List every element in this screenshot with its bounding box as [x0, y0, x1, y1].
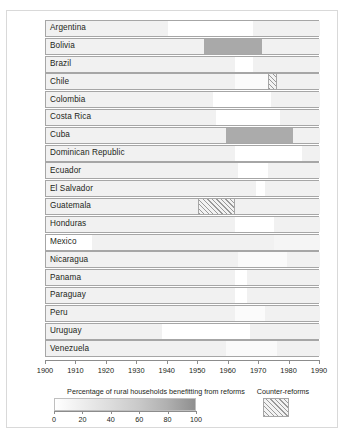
country-label: Guatemala: [50, 199, 91, 214]
legend-tick-label: 0: [52, 415, 56, 424]
reform-segment: [265, 181, 320, 196]
reform-segment: [274, 217, 320, 232]
country-label: Peru: [50, 306, 68, 321]
legend-gradient-axis: 020406080100: [54, 411, 196, 425]
country-row[interactable]: Colombia: [45, 91, 319, 108]
reform-segment: [226, 341, 278, 356]
legend-tick-label: 80: [164, 415, 172, 424]
x-axis-tick-label: 1970: [250, 366, 266, 375]
reform-segment: [235, 146, 302, 161]
country-row[interactable]: Nicaragua: [45, 251, 319, 268]
reform-segment: [274, 235, 320, 250]
counter-reform-segment: [198, 199, 235, 214]
reform-segment: [226, 128, 293, 143]
reform-segment: [235, 74, 268, 89]
chart-figure: ArgentinaBoliviaBrazilChileColombiaCosta…: [6, 10, 338, 428]
timeline-plot-area: ArgentinaBoliviaBrazilChileColombiaCosta…: [45, 20, 319, 358]
x-axis-tick: [289, 360, 290, 364]
x-axis-tick-label: 1960: [219, 366, 235, 375]
country-row[interactable]: Honduras: [45, 216, 319, 233]
country-row[interactable]: Chile: [45, 73, 319, 90]
reform-segment: [302, 146, 320, 161]
x-axis-tick: [45, 360, 46, 364]
reform-segment: [271, 92, 320, 107]
country-row[interactable]: El Salvador: [45, 180, 319, 197]
legend-tick-label: 60: [135, 415, 143, 424]
country-row[interactable]: Bolivia: [45, 38, 319, 55]
reform-segment: [46, 306, 235, 321]
x-axis: 1900191019201930194019501960197019801990: [45, 360, 319, 382]
reform-segment: [235, 288, 247, 303]
x-axis-tick: [106, 360, 107, 364]
country-row[interactable]: Uruguay: [45, 323, 319, 340]
country-label: Colombia: [50, 92, 85, 107]
reform-segment: [250, 324, 320, 339]
reform-segment: [235, 57, 253, 72]
country-label: Brazil: [50, 57, 71, 72]
country-row[interactable]: Ecuador: [45, 162, 319, 179]
x-axis-tick-label: 1900: [37, 366, 53, 375]
reform-segment: [235, 199, 320, 214]
country-row[interactable]: Cuba: [45, 127, 319, 144]
reform-segment: [262, 39, 320, 54]
country-label: Costa Rica: [50, 110, 91, 125]
country-row[interactable]: Venezuela: [45, 340, 319, 357]
x-axis-line: [45, 360, 319, 361]
reform-segment: [235, 306, 265, 321]
reform-segment: [277, 74, 320, 89]
country-row[interactable]: Paraguay: [45, 287, 319, 304]
reform-segment: [256, 181, 265, 196]
reform-segment: [238, 163, 268, 178]
country-row[interactable]: Mexico: [45, 234, 319, 251]
reform-segment: [46, 74, 235, 89]
country-label: El Salvador: [50, 181, 93, 196]
legend-tick-label: 100: [190, 415, 202, 424]
x-axis-tick-label: 1910: [67, 366, 83, 375]
country-row[interactable]: Guatemala: [45, 198, 319, 215]
country-label: Argentina: [50, 21, 86, 36]
country-row[interactable]: Panama: [45, 269, 319, 286]
reform-segment: [204, 39, 262, 54]
x-axis-tick: [167, 360, 168, 364]
reform-segment: [168, 21, 253, 36]
counter-reform-segment: [268, 74, 277, 89]
country-row[interactable]: Brazil: [45, 56, 319, 73]
reform-segment: [46, 128, 226, 143]
x-axis-tick: [258, 360, 259, 364]
country-row[interactable]: Peru: [45, 305, 319, 322]
x-axis-tick: [136, 360, 137, 364]
legend-tick: [54, 411, 55, 414]
country-label: Bolivia: [50, 39, 75, 54]
reform-segment: [247, 288, 320, 303]
country-label: Cuba: [50, 128, 70, 143]
x-axis-tick: [228, 360, 229, 364]
reform-segment: [265, 306, 320, 321]
reform-segment: [235, 270, 247, 285]
country-row[interactable]: Costa Rica: [45, 109, 319, 126]
reform-segment: [280, 110, 320, 125]
country-label: Nicaragua: [50, 252, 88, 267]
reform-segment: [213, 92, 271, 107]
reform-segment: [247, 270, 320, 285]
country-label: Mexico: [50, 235, 77, 250]
x-axis-tick-label: 1990: [311, 366, 327, 375]
reform-segment: [277, 341, 320, 356]
x-axis-tick-label: 1980: [280, 366, 296, 375]
reform-segment: [92, 235, 275, 250]
country-row[interactable]: Argentina: [45, 20, 319, 37]
reform-segment: [287, 252, 320, 267]
country-row[interactable]: Dominican Republic: [45, 145, 319, 162]
reform-segment: [216, 110, 280, 125]
legend-tick: [196, 411, 197, 414]
country-label: Chile: [50, 74, 69, 89]
reform-segment: [162, 324, 250, 339]
reform-segment: [253, 57, 320, 72]
country-label: Paraguay: [50, 288, 86, 303]
country-label: Dominican Republic: [50, 146, 125, 161]
country-label: Panama: [50, 270, 81, 285]
legend-tick-label: 20: [78, 415, 86, 424]
x-axis-tick-label: 1940: [159, 366, 175, 375]
legend-tick: [82, 411, 83, 414]
country-label: Venezuela: [50, 341, 89, 356]
x-axis-tick: [75, 360, 76, 364]
